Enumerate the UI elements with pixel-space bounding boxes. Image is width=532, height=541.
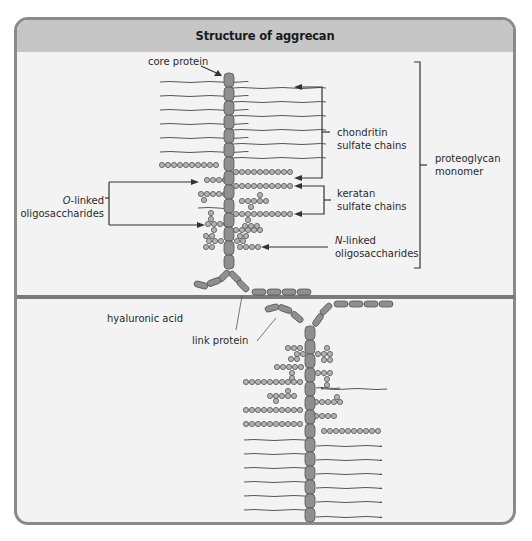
label-n-linked-1: N-linked <box>335 235 376 246</box>
label-proteoglycan-1: proteoglycan <box>435 153 501 164</box>
label-chondroitin-1: chondritin <box>337 127 388 138</box>
label-proteoglycan-2: monomer <box>435 166 484 177</box>
aggrecan-diagram: core protein chondritin sulfate chains k… <box>0 0 532 541</box>
label-chondroitin-2: sulfate chains <box>337 140 407 151</box>
hyaluronic-acid-divider <box>17 295 515 299</box>
core-protein-top <box>224 73 234 269</box>
label-keratan-2: sulfate chains <box>337 201 407 212</box>
label-keratan-1: keratan <box>337 188 375 199</box>
core-protein-bottom <box>305 326 315 522</box>
label-hyaluronic-acid: hyaluronic acid <box>107 313 183 324</box>
top-monomer <box>105 62 427 295</box>
bottom-monomer <box>236 296 393 522</box>
label-o-linked-1: O-linked <box>63 195 104 206</box>
label-link-protein: link protein <box>192 335 248 346</box>
label-core-protein: core protein <box>148 56 208 67</box>
label-n-linked-2: oligosaccharides <box>335 248 419 259</box>
label-o-linked-2: oligosaccharides <box>20 208 104 219</box>
